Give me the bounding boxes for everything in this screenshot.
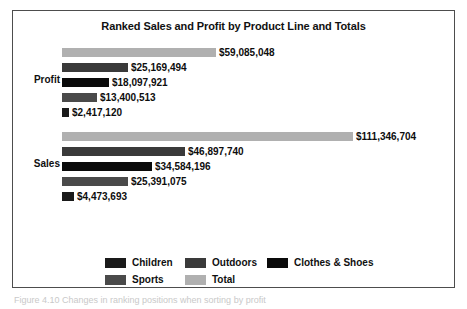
bar-value-label: $46,897,740 <box>185 144 244 159</box>
legend-label: Total <box>206 274 235 285</box>
bar-value-label: $25,391,075 <box>128 174 187 189</box>
bar-profit-sports[interactable] <box>62 93 97 102</box>
bar-value-label: $2,417,120 <box>69 105 122 120</box>
bar-row: $46,897,740 <box>62 144 456 159</box>
legend-swatch-icon <box>185 275 206 285</box>
legend-item-total[interactable]: Total <box>185 271 235 288</box>
axis-label-sales: Sales <box>13 158 60 169</box>
legend-item-sports[interactable]: Sports <box>105 271 164 288</box>
bar-profit-total[interactable] <box>62 48 216 57</box>
chart-title: Ranked Sales and Profit by Product Line … <box>13 20 454 32</box>
legend-row: Children Outdoors Clothes & Shoes <box>13 254 456 271</box>
bar-row: $34,584,196 <box>62 159 456 174</box>
bar-row: $4,473,693 <box>62 189 456 204</box>
bar-row: $25,391,075 <box>62 174 456 189</box>
legend-item-outdoors[interactable]: Outdoors <box>185 254 257 271</box>
bar-value-label: $18,097,921 <box>109 75 168 90</box>
bar-value-label: $59,085,048 <box>216 45 275 60</box>
legend-label: Clothes & Shoes <box>288 257 373 268</box>
bar-sales-outdoors[interactable] <box>62 147 185 156</box>
bar-value-label: $111,346,704 <box>353 129 416 144</box>
chart-frame: Ranked Sales and Profit by Product Line … <box>12 10 455 288</box>
bar-profit-children[interactable] <box>62 108 69 117</box>
bar-value-label: $13,400,513 <box>97 90 156 105</box>
bar-row: $18,097,921 <box>62 75 456 90</box>
legend-swatch-icon <box>267 258 288 268</box>
bar-row: $111,346,704 <box>62 129 456 144</box>
bar-profit-clothes-and-shoes[interactable] <box>62 78 109 87</box>
bar-row: $59,085,048 <box>62 45 456 60</box>
bar-row: $13,400,513 <box>62 90 456 105</box>
legend-row: Sports Total <box>13 271 456 288</box>
bar-profit-outdoors[interactable] <box>62 63 128 72</box>
legend-label: Sports <box>126 274 164 285</box>
legend-item-clothes-and-shoes[interactable]: Clothes & Shoes <box>267 254 373 271</box>
legend-item-children[interactable]: Children <box>105 254 173 271</box>
legend-label: Children <box>126 257 173 268</box>
axis-label-profit: Profit <box>13 74 60 85</box>
legend-swatch-icon <box>105 258 126 268</box>
bar-row: $25,169,494 <box>62 60 456 75</box>
legend-label: Outdoors <box>206 257 257 268</box>
bar-value-label: $34,584,196 <box>152 159 211 174</box>
bar-sales-clothes-and-shoes[interactable] <box>62 162 152 171</box>
legend-swatch-icon <box>185 258 206 268</box>
bar-value-label: $25,169,494 <box>128 60 187 75</box>
bar-sales-children[interactable] <box>62 192 74 201</box>
figure-caption: Figure 4.10 Changes in ranking positions… <box>14 295 454 307</box>
plot-area: Profit $59,085,048 $25,169,494 $18,097,9… <box>13 45 456 245</box>
bar-sales-sports[interactable] <box>62 177 128 186</box>
bar-sales-total[interactable] <box>62 132 353 141</box>
bar-row: $2,417,120 <box>62 105 456 120</box>
legend-swatch-icon <box>105 275 126 285</box>
bar-value-label: $4,473,693 <box>74 189 127 204</box>
